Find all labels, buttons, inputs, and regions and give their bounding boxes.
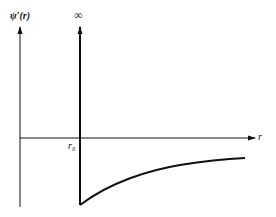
r0-tick-label: r₀: [68, 140, 75, 151]
potential-curve: [80, 158, 245, 205]
x-axis-label: r: [258, 131, 262, 142]
infinity-label: ∞: [74, 8, 83, 23]
diagram-canvas: [0, 0, 276, 217]
y-axis-label: ψ′(r): [10, 10, 30, 21]
